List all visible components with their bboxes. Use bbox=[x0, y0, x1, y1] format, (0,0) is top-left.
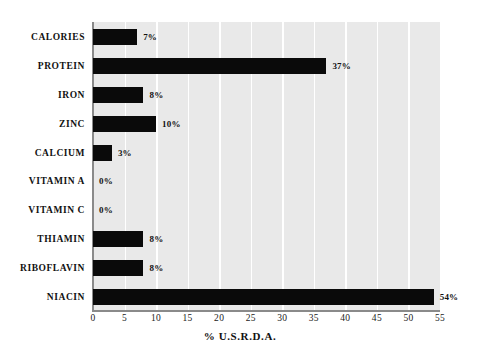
x-tick-label: 20 bbox=[204, 313, 234, 323]
bar-category-label: CALCIUM bbox=[0, 145, 85, 161]
x-tick-label: 30 bbox=[267, 313, 297, 323]
bar-row: CALCIUM3% bbox=[0, 145, 480, 161]
bar-value-label: 3% bbox=[118, 145, 132, 161]
bar-value-label: 7% bbox=[143, 29, 157, 45]
bar bbox=[93, 87, 143, 103]
bar-value-label: 8% bbox=[149, 231, 163, 247]
bar-row: PROTEIN37% bbox=[0, 58, 480, 74]
bar-value-label: 8% bbox=[149, 87, 163, 103]
bar-value-label: 0% bbox=[99, 202, 113, 218]
bar-category-label: VITAMIN C bbox=[0, 202, 85, 218]
bar-row: THIAMIN8% bbox=[0, 231, 480, 247]
x-tick-label: 45 bbox=[362, 313, 392, 323]
bar-value-label: 0% bbox=[99, 173, 113, 189]
bar-category-label: VITAMIN A bbox=[0, 173, 85, 189]
bar-row: IRON8% bbox=[0, 87, 480, 103]
bar bbox=[93, 116, 156, 132]
bar-category-label: CALORIES bbox=[0, 29, 85, 45]
bar-category-label: PROTEIN bbox=[0, 58, 85, 74]
x-tick-label: 10 bbox=[141, 313, 171, 323]
bar-row: VITAMIN C0% bbox=[0, 202, 480, 218]
bar-row: CALORIES7% bbox=[0, 29, 480, 45]
bar bbox=[93, 58, 326, 74]
bar-category-label: IRON bbox=[0, 87, 85, 103]
x-tick-label: 50 bbox=[393, 313, 423, 323]
bar-value-label: 37% bbox=[332, 58, 351, 74]
x-tick-label: 40 bbox=[330, 313, 360, 323]
bar-row: ZINC10% bbox=[0, 116, 480, 132]
x-tick-label: 0 bbox=[78, 313, 108, 323]
bar bbox=[93, 29, 137, 45]
bar-value-label: 54% bbox=[440, 289, 459, 305]
bar bbox=[93, 231, 143, 247]
bar bbox=[93, 260, 143, 276]
bar-category-label: THIAMIN bbox=[0, 231, 85, 247]
x-tick-label: 15 bbox=[173, 313, 203, 323]
bar-category-label: NIACIN bbox=[0, 289, 85, 305]
bar-category-label: RIBOFLAVIN bbox=[0, 260, 85, 276]
x-tick-label: 25 bbox=[236, 313, 266, 323]
bar-value-label: 8% bbox=[149, 260, 163, 276]
x-axis-line bbox=[92, 310, 440, 312]
bar-row: NIACIN54% bbox=[0, 289, 480, 305]
bar-value-label: 10% bbox=[162, 116, 181, 132]
bar-row: VITAMIN A0% bbox=[0, 173, 480, 189]
bar bbox=[93, 145, 112, 161]
bar-row: RIBOFLAVIN8% bbox=[0, 260, 480, 276]
x-tick-label: 55 bbox=[425, 313, 455, 323]
bar bbox=[93, 289, 434, 305]
x-axis-title: % U.S.R.D.A. bbox=[0, 330, 480, 342]
x-tick-label: 35 bbox=[299, 313, 329, 323]
x-tick-label: 5 bbox=[110, 313, 140, 323]
bar-chart: CALORIES7%PROTEIN37%IRON8%ZINC10%CALCIUM… bbox=[0, 0, 480, 356]
bar-category-label: ZINC bbox=[0, 116, 85, 132]
